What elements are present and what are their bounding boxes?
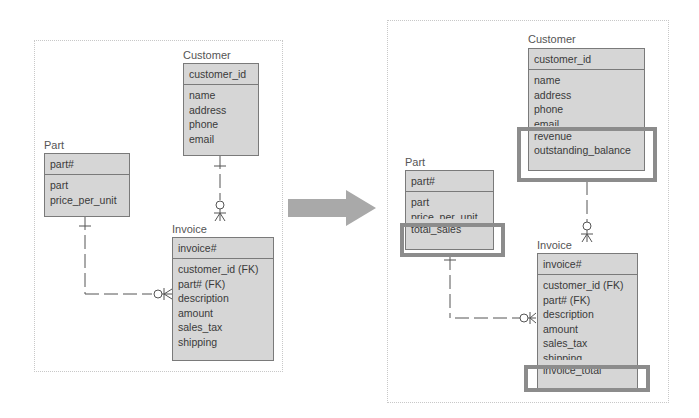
after-customer-primary-key: customer_id xyxy=(529,49,644,70)
after-part-attr: part xyxy=(411,195,489,210)
after-customer-attr: email xyxy=(534,117,640,126)
after-part-new-fields-highlight xyxy=(400,223,505,257)
after-invoice-attr: part# (FK) xyxy=(543,293,633,308)
after-part-attr: price_per_unit xyxy=(411,210,489,219)
after-customer-attr: address xyxy=(534,88,640,103)
after-invoice-attr: shipping xyxy=(543,351,633,360)
after-invoice-attr: description xyxy=(543,307,633,322)
after-customer-label: Customer xyxy=(528,33,576,45)
after-invoice-attr: amount xyxy=(543,322,633,337)
after-invoice-new-fields-highlight xyxy=(524,365,650,392)
after-invoice-primary-key: invoice# xyxy=(538,254,637,275)
after-invoice-attr: customer_id (FK) xyxy=(543,278,633,293)
after-invoice-attr: sales_tax xyxy=(543,336,633,351)
after-part-label: Part xyxy=(405,156,425,168)
after-customer-attr: phone xyxy=(534,102,640,117)
after-customer-attr: name xyxy=(534,73,640,88)
after-part-primary-key: part# xyxy=(406,171,493,192)
after-customer-new-fields-highlight xyxy=(517,127,657,182)
after-invoice-label: Invoice xyxy=(537,239,572,251)
